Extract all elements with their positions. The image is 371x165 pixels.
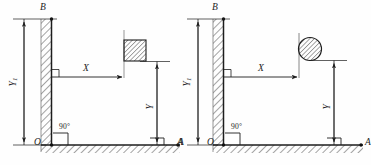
wall-hatch-right xyxy=(213,19,224,145)
label-Y1-text-right: Y xyxy=(182,81,192,86)
label-Y1-right: Y1 xyxy=(183,77,193,86)
label-Y1-left: Y1 xyxy=(9,77,19,86)
right-angle-marker-wall-right xyxy=(224,70,232,78)
label-ground-end-A-right: A xyxy=(365,138,371,148)
right-angle-marker-corner-left xyxy=(53,133,68,145)
label-Y-right: Y xyxy=(323,104,333,109)
label-Y-left: Y xyxy=(146,104,156,109)
label-angle-90-right: 90° xyxy=(231,123,242,131)
label-Y1-sub-left: 1 xyxy=(11,77,18,81)
label-origin-O-right: O xyxy=(207,138,214,148)
ground-hatch-right xyxy=(213,145,363,153)
label-origin-O-left: O xyxy=(34,138,41,148)
node-origin-right xyxy=(222,143,225,146)
diagram-left-square-block: B O A Y1 X Y 90° xyxy=(0,0,186,165)
node-ground-end-right xyxy=(359,143,362,146)
figure-canvas: B O A Y1 X Y 90° xyxy=(0,0,371,165)
square-block-left xyxy=(124,40,146,61)
label-X-left: X xyxy=(83,64,89,74)
right-angle-marker-wall-left xyxy=(52,70,60,78)
diagram-left-svg xyxy=(0,0,186,165)
label-Y1-sub-right: 1 xyxy=(185,77,192,81)
label-X-right: X xyxy=(258,64,264,74)
wall-hatch-left xyxy=(41,19,52,145)
label-Y1-text-left: Y xyxy=(8,81,18,86)
right-angle-marker-corner-right xyxy=(225,133,240,145)
label-angle-90-left: 90° xyxy=(59,123,70,131)
label-ground-start-A-right: A xyxy=(177,138,183,148)
node-origin-left xyxy=(50,143,53,146)
circle-body-right xyxy=(299,38,322,61)
diagram-right-circle-body: B O A A Y1 X Y 90° xyxy=(185,0,371,165)
ground-hatch-left xyxy=(41,145,180,153)
label-wall-top-B-left: B xyxy=(40,3,46,13)
label-wall-top-B-right: B xyxy=(212,3,218,13)
